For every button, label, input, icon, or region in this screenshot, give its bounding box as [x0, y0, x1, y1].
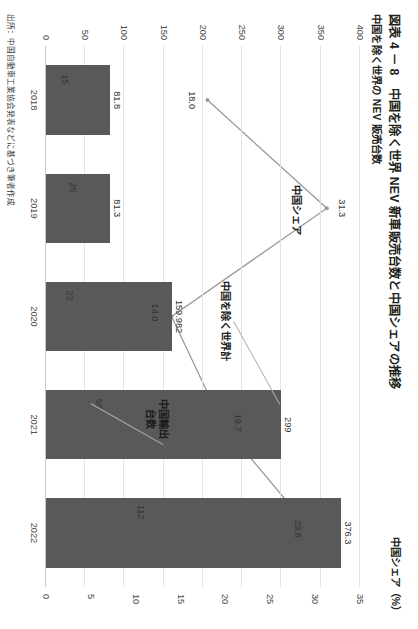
bar-china-export — [46, 174, 66, 202]
y-axis-tick-label: 150 — [159, 25, 169, 40]
y-axis-tick-label: 250 — [237, 25, 247, 40]
bar-total-label: 81.3 — [112, 199, 122, 217]
china-share-point-label: 29.8 — [293, 520, 303, 538]
y2-axis-tick-label: 5 — [86, 594, 96, 599]
figure: 図表 4 － 8 中国を除く世界 NEV 新車販売台数と中国シェアの推移 中国を… — [0, 0, 418, 629]
y-axis-tick-label: 400 — [355, 25, 365, 40]
y-axis-tick-label: 100 — [120, 25, 130, 40]
left-axis-title: 中国を除く世界の NEV 販売台数 — [370, 14, 385, 165]
bar-china-export-label: 112 — [136, 505, 146, 520]
rotated-figure-canvas: 図表 4 － 8 中国を除く世界 NEV 新車販売台数と中国シェアの推移 中国を… — [0, 0, 418, 629]
bar-total-label: 376.3 — [343, 521, 353, 544]
y2-axis-tick-label: 20 — [220, 594, 230, 604]
china-share-point-label: 19.7 — [233, 414, 243, 432]
annotation-china-export-line1: 中国輸出 — [157, 399, 172, 439]
bar-china-export — [46, 390, 92, 418]
annotation-china-share: 中国シェア — [290, 185, 305, 235]
y2-axis-tick-label: 10 — [131, 594, 141, 604]
annotation-china-export-line2: 台数 — [144, 409, 159, 429]
y-axis-tick-label: 50 — [80, 30, 90, 40]
gridline — [359, 46, 360, 587]
bar-china-export — [46, 498, 134, 526]
bar-china-export — [46, 65, 58, 93]
y2-axis-tick-label: 30 — [310, 594, 320, 604]
bar-total-label: 159.982 — [174, 300, 184, 333]
y-axis-tick-label: 0 — [41, 35, 51, 40]
bar-china-export — [46, 282, 63, 310]
x-axis-tick-label: 2018 — [29, 90, 39, 110]
bar-total-label: 81.8 — [112, 91, 122, 109]
bar-china-export-label: 25 — [68, 182, 78, 192]
x-axis-tick-label: 2021 — [29, 414, 39, 434]
plot-area: 0501001502002503003504000510152025303520… — [46, 46, 360, 587]
china-share-point-label: 14.0 — [150, 304, 160, 322]
china-share-point-label: 31.3 — [337, 199, 347, 217]
x-axis-tick-label: 2019 — [29, 198, 39, 218]
y2-axis-tick-label: 0 — [41, 594, 51, 599]
y2-axis-tick-label: 15 — [176, 594, 186, 604]
y2-axis-tick-label: 25 — [265, 594, 275, 604]
bar-total-label: 299 — [283, 417, 293, 432]
bar-china-export-label: 15 — [60, 74, 70, 84]
x-axis-tick-label: 2020 — [29, 306, 39, 326]
x-axis-tick-label: 2022 — [29, 523, 39, 543]
y-axis-tick-label: 350 — [316, 25, 326, 40]
y-axis-tick-label: 200 — [198, 25, 208, 40]
right-axis-title: 中国シェア（%） — [389, 537, 404, 616]
china-share-point-label: 18.0 — [188, 91, 198, 109]
y2-axis-tick-label: 35 — [355, 594, 365, 604]
y-axis-tick-label: 300 — [277, 25, 287, 40]
source-note: 出所：中国自動車工業協会発表などに基づき筆者作成 — [6, 14, 17, 206]
bar-china-export-label: 22 — [65, 291, 75, 301]
figure-title: 図表 4 － 8 中国を除く世界 NEV 新車販売台数と中国シェアの推移 — [386, 14, 404, 389]
